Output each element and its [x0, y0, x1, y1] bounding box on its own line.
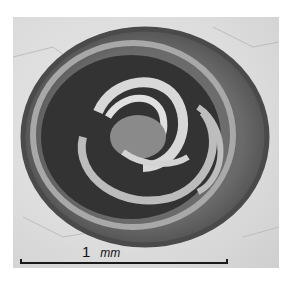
- spiral-shell-illustration: [13, 17, 279, 268]
- scale-unit: mm: [100, 246, 120, 260]
- scale-label: 1mm: [82, 243, 120, 260]
- scale-tick-right: [226, 259, 228, 264]
- scale-tick-left: [20, 259, 22, 264]
- scale-value: 1: [82, 243, 90, 260]
- scale-bar: [20, 262, 228, 264]
- shell-micrograph: [13, 17, 279, 268]
